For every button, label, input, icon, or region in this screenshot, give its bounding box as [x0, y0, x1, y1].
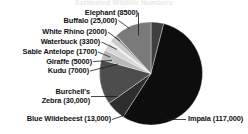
label-zebra-line2: Zebra (30,000)	[14, 97, 90, 105]
label-impala: Impala (117,000)	[188, 115, 248, 123]
leader-line-buffalo	[119, 21, 130, 29]
label-white-rhino: White Rhino (2000)	[24, 28, 107, 36]
label-buffalo: Buffalo (25,000)	[42, 17, 117, 25]
chart-page: Estimated Wildlife Numbers Elephant (850…	[0, 0, 248, 134]
label-blue-wildebeest: Blue Wildebeest (13,000)	[2, 115, 111, 123]
label-sable-antelope: Sable Antelope (1700)	[2, 48, 97, 56]
label-waterbuck: Waterbuck (3300)	[22, 38, 100, 46]
label-kudu: Kudu (7000)	[28, 67, 89, 75]
label-giraffe: Giraffe (5000)	[22, 58, 92, 66]
